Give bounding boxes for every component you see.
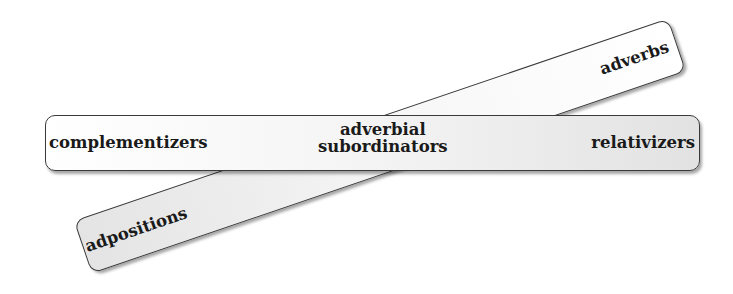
label-complementizers: complementizers <box>49 134 208 151</box>
horizontal-category-bar: complementizers adverbial subordinators … <box>45 115 700 171</box>
label-adverbs: adverbs <box>597 38 671 78</box>
label-relativizers: relativizers <box>591 134 695 151</box>
label-adverbial-line2: subordinators <box>318 138 448 155</box>
label-adverbial-subordinators: adverbial subordinators <box>318 121 448 156</box>
label-adverbial-line1: adverbial <box>318 121 448 138</box>
label-adpositions: adpositions <box>83 204 189 255</box>
